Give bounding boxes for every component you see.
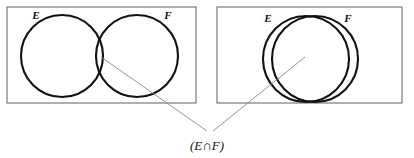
right-panel-label-e: E — [263, 12, 271, 24]
right-panel-label-f: F — [343, 12, 352, 24]
caption-leader-lines — [101, 57, 305, 131]
venn-diagram-figure: E F E F (E∩F) — [0, 0, 414, 158]
right-panel: E F — [217, 7, 402, 103]
right-panel-frame — [217, 7, 402, 103]
right-panel-circle-f — [272, 16, 358, 102]
left-panel-label-e: E — [31, 9, 39, 21]
left-panel-circle-e — [21, 15, 103, 97]
caption-intersection-operator: ∩ — [202, 138, 211, 153]
figure-canvas: E F E F (E∩F) — [0, 0, 414, 158]
left-panel-label-f: F — [163, 9, 172, 21]
left-panel-circle-f — [96, 15, 178, 97]
right-panel-circle-e — [263, 16, 349, 102]
leader-line-left — [101, 57, 207, 131]
caption: (E∩F) — [190, 138, 224, 153]
left-panel: E F — [7, 7, 196, 103]
caption-set-e: E — [193, 138, 202, 153]
left-panel-frame — [7, 7, 196, 103]
caption-close-paren: ) — [219, 138, 224, 153]
